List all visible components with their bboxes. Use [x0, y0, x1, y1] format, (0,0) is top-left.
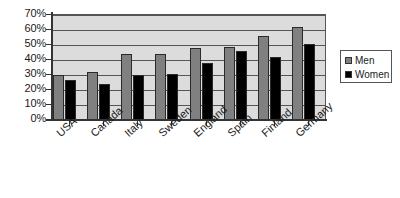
x-axis-category-label: Finland: [259, 106, 294, 139]
x-axis-category-label: Spain: [225, 111, 254, 139]
x-axis-category-label: Germany: [293, 100, 335, 139]
legend-swatch-icon: [345, 71, 352, 78]
x-axis-category-label: Italy: [122, 116, 145, 138]
legend-swatch-icon: [345, 57, 352, 64]
x-axis-category-label: USA: [54, 115, 79, 139]
chart-legend: MenWomen: [340, 50, 392, 83]
x-axis-category-label: Sweden: [156, 103, 194, 139]
x-axis-category-label: England: [191, 103, 229, 139]
legend-label: Women: [355, 70, 389, 80]
legend-label: Men: [355, 56, 374, 66]
bar-chart: 0%10%20%30%40%50%60%70% USACanadaItalySw…: [0, 0, 400, 198]
x-axis-labels: USACanadaItalySwedenEnglandSpainFinlandG…: [0, 0, 400, 198]
x-axis-category-label: Canada: [88, 104, 125, 139]
legend-entry-men: Men: [345, 54, 391, 67]
legend-entry-women: Women: [345, 68, 391, 81]
